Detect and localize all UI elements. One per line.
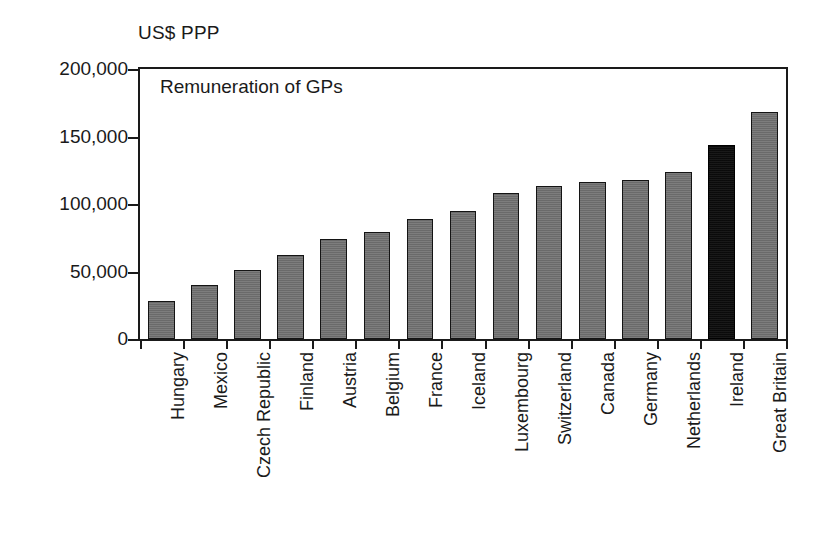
x-axis-category-label: Great Britain bbox=[771, 352, 789, 453]
x-axis-category-label: Canada bbox=[599, 352, 617, 415]
y-axis-tick-label: 150,000 bbox=[59, 126, 128, 148]
x-axis-category-label-text: Netherlands bbox=[685, 352, 703, 449]
bar bbox=[191, 285, 218, 339]
x-axis-category-label: Iceland bbox=[470, 352, 488, 410]
x-axis-tick-mark bbox=[398, 341, 400, 349]
x-axis-tick-mark bbox=[269, 341, 271, 349]
y-axis-tick-mark bbox=[128, 137, 138, 139]
x-axis-category-label: Hungary bbox=[169, 352, 187, 420]
y-axis-tick-mark bbox=[128, 339, 138, 341]
x-axis-tick-mark bbox=[528, 341, 530, 349]
bar bbox=[665, 172, 692, 339]
bar bbox=[407, 219, 434, 339]
x-axis-category-labels: HungaryMexicoCzech RepublicFinlandAustri… bbox=[140, 352, 786, 540]
x-axis-tick-marks bbox=[140, 341, 786, 351]
x-axis-tick-mark bbox=[226, 341, 228, 349]
x-axis-category-label: Luxembourg bbox=[513, 352, 531, 452]
x-axis-category-label-text: Iceland bbox=[470, 352, 488, 410]
x-axis-category-label-text: Canada bbox=[599, 352, 617, 415]
y-axis-tick-label: 50,000 bbox=[70, 261, 128, 283]
x-axis-tick-mark bbox=[183, 341, 185, 349]
bar bbox=[708, 145, 735, 339]
bars-layer bbox=[140, 69, 786, 339]
x-axis-category-label: Finland bbox=[298, 352, 316, 411]
x-axis-tick-mark bbox=[657, 341, 659, 349]
x-axis-category-label: Switzerland bbox=[556, 352, 574, 445]
y-axis-unit-label: US$ PPP bbox=[138, 22, 220, 44]
x-axis-category-label-text: Great Britain bbox=[771, 352, 789, 453]
x-axis-category-label-text: Ireland bbox=[728, 352, 746, 407]
bar bbox=[450, 211, 477, 339]
x-axis-category-label: Ireland bbox=[728, 352, 746, 407]
x-axis-tick-mark bbox=[571, 341, 573, 349]
x-axis-category-label-text: Hungary bbox=[169, 352, 187, 420]
y-axis-tick-label: 100,000 bbox=[59, 193, 128, 215]
bar bbox=[622, 180, 649, 339]
x-axis-category-label-text: Belgium bbox=[384, 352, 402, 417]
x-axis-category-label-text: Switzerland bbox=[556, 352, 574, 445]
y-axis-tick-mark bbox=[128, 204, 138, 206]
x-axis-tick-mark bbox=[786, 341, 788, 349]
x-axis-category-label-text: Czech Republic bbox=[255, 352, 273, 478]
x-axis-category-label: Germany bbox=[642, 352, 660, 426]
x-axis-category-label: Czech Republic bbox=[255, 352, 273, 478]
bar bbox=[320, 239, 347, 339]
x-axis-category-label: France bbox=[427, 352, 445, 408]
bar bbox=[493, 193, 520, 339]
bar bbox=[536, 186, 563, 339]
x-axis-tick-mark bbox=[441, 341, 443, 349]
bar bbox=[579, 182, 606, 339]
x-axis-category-label: Austria bbox=[341, 352, 359, 408]
y-axis-tick-label: 0 bbox=[117, 328, 128, 350]
x-axis-category-label: Belgium bbox=[384, 352, 402, 417]
bar bbox=[234, 270, 261, 339]
bar bbox=[751, 112, 778, 339]
y-axis-tick-label: 200,000 bbox=[59, 58, 128, 80]
x-axis-category-label-text: Germany bbox=[642, 352, 660, 426]
x-axis-category-label-text: Finland bbox=[298, 352, 316, 411]
x-axis-tick-mark bbox=[743, 341, 745, 349]
x-axis-category-label-text: Austria bbox=[341, 352, 359, 408]
x-axis-category-label-text: Luxembourg bbox=[513, 352, 531, 452]
x-axis-tick-mark bbox=[485, 341, 487, 349]
x-axis-category-label: Mexico bbox=[212, 352, 230, 409]
x-axis-category-label-text: Mexico bbox=[212, 352, 230, 409]
x-axis-category-label-text: France bbox=[427, 352, 445, 408]
chart-root: US$ PPP 050,000100,000150,000200,000 Rem… bbox=[0, 0, 824, 540]
bar bbox=[148, 301, 175, 339]
x-axis-tick-mark bbox=[140, 341, 142, 349]
x-axis-tick-mark bbox=[355, 341, 357, 349]
y-axis-tick-mark bbox=[128, 272, 138, 274]
x-axis-tick-mark bbox=[614, 341, 616, 349]
y-axis-tick-mark bbox=[128, 69, 138, 71]
y-axis-tick-labels: 050,000100,000150,000200,000 bbox=[0, 0, 128, 540]
bar bbox=[277, 255, 304, 339]
x-axis-category-label: Netherlands bbox=[685, 352, 703, 449]
x-axis-tick-mark bbox=[312, 341, 314, 349]
x-axis-tick-mark bbox=[700, 341, 702, 349]
bar bbox=[364, 232, 391, 339]
